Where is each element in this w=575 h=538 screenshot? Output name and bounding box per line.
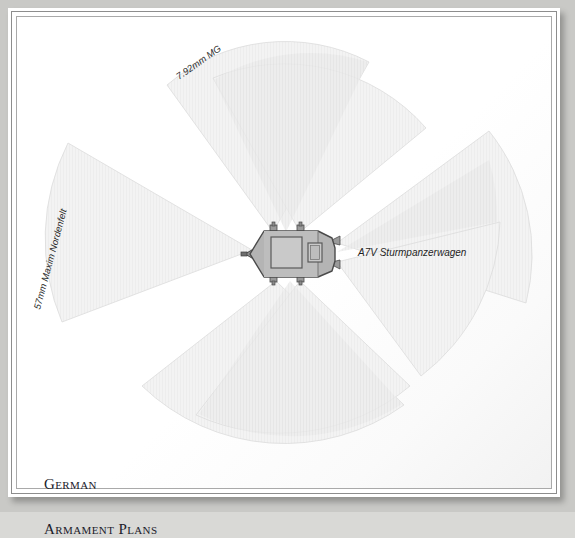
commander-cupola-inner [311,246,320,260]
label-vehicle: A7V Sturmpanzerwagen [357,247,467,258]
vehicle-a7v [241,222,340,285]
page-title: German Armament Plans [44,447,157,538]
superstructure-hatch [271,237,302,268]
page-title-line-1: German [44,477,157,492]
page-title-line-2: Armament Plans [44,522,157,537]
arc-main-gun-left [45,143,252,322]
